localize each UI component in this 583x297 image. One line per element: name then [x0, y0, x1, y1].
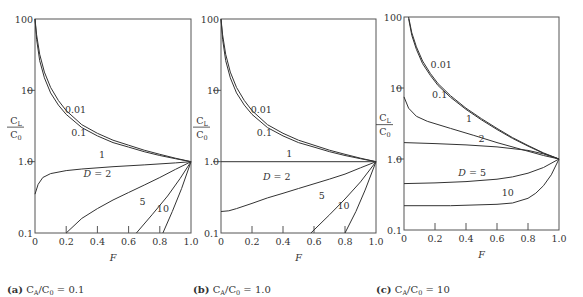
svg-text:CL: CL: [379, 112, 391, 125]
curve-label: 5: [319, 190, 325, 201]
curve-label: 10: [157, 203, 169, 214]
y-tick-label: 10: [207, 85, 219, 96]
x-tick-label: 0.2: [427, 233, 442, 244]
x-tick-label: 0.8: [152, 236, 167, 247]
panel-c: 0.11.01010000.20.40.60.81.0FCLC00.010.11…: [376, 12, 567, 297]
y-tick-label: 10: [390, 83, 402, 94]
y-tick-label: 100: [15, 14, 33, 25]
y-tick-label: 1.0: [204, 156, 219, 167]
panel-b: 0.11.01010000.20.40.60.81.0FCLC00.010.11…: [193, 14, 384, 297]
svg-text:CL: CL: [10, 115, 22, 128]
x-tick-label: 0.4: [90, 236, 105, 247]
y-axis-label: CLC0: [7, 115, 24, 142]
x-tick-label: 0.2: [244, 236, 259, 247]
curve-label: D = 2: [262, 171, 291, 182]
curve-1: [35, 162, 191, 195]
y-tick-label: 1.0: [387, 154, 402, 165]
x-tick-label: 0.4: [275, 236, 290, 247]
curve-label: 10: [337, 200, 349, 211]
y-tick-label: 0.1: [204, 228, 219, 239]
x-tick-label: 0.6: [121, 236, 136, 247]
y-tick-label: 10: [21, 85, 33, 96]
curve-label: 0.1: [257, 127, 272, 138]
plot-frame: [404, 17, 559, 230]
x-tick-label: 0.8: [520, 233, 535, 244]
x-tick-label: 0.4: [458, 233, 473, 244]
plot-frame: [221, 19, 376, 233]
svg-text:C0: C0: [10, 129, 21, 142]
y-tick-label: 0.1: [387, 225, 402, 236]
curve-label: 1: [99, 149, 105, 160]
x-axis-label: F: [294, 252, 302, 263]
curve-label: 1: [466, 113, 472, 124]
x-tick-label: 0.8: [337, 236, 352, 247]
panel-caption: (a) CA/C0 = 0.1: [7, 284, 84, 297]
svg-text:CL: CL: [196, 115, 208, 128]
plot-frame: [35, 19, 191, 233]
x-tick-label: 0.6: [306, 236, 321, 247]
y-axis-label: CLC0: [376, 112, 393, 139]
curve-label: 5: [140, 196, 146, 207]
figure: 0.11.01010000.20.40.60.81.0FCLC00.010.11…: [0, 0, 583, 297]
y-tick-label: 100: [384, 12, 402, 23]
x-tick-label: 1.0: [183, 236, 198, 247]
curve-label: 0.01: [251, 104, 272, 115]
curve-0p01: [221, 19, 376, 162]
curve-2: [404, 143, 559, 159]
curve-label: 0.01: [431, 59, 452, 70]
y-tick-label: 0.1: [18, 228, 33, 239]
x-tick-label: 1.0: [368, 236, 383, 247]
curve-0p01: [35, 19, 191, 162]
curve-label: 2: [478, 133, 484, 144]
curve-label: 1: [286, 148, 292, 159]
curve-label: D = 5: [457, 167, 486, 178]
curve-label: 0.1: [432, 89, 447, 100]
x-tick-label: 0: [401, 233, 407, 244]
y-axis-label: CLC0: [193, 115, 210, 142]
x-tick-label: 0.6: [489, 233, 504, 244]
x-tick-label: 1.0: [551, 233, 566, 244]
curve-label: 10: [502, 187, 514, 198]
curve-label: 0.1: [71, 127, 86, 138]
curve-D2: [221, 162, 376, 212]
panel-a: 0.11.01010000.20.40.60.81.0FCLC00.010.11…: [7, 14, 199, 297]
svg-text:C0: C0: [196, 129, 207, 142]
y-tick-label: 1.0: [18, 156, 33, 167]
y-tick-label: 100: [201, 14, 219, 25]
x-axis-label: F: [477, 249, 485, 260]
x-tick-label: 0: [218, 236, 224, 247]
x-axis-label: F: [109, 252, 117, 263]
x-tick-label: 0: [32, 236, 38, 247]
curve-label: D = 2: [83, 168, 112, 179]
curve-label: 0.01: [65, 104, 86, 115]
svg-text:C0: C0: [379, 126, 390, 139]
panel-caption: (c) CA/C0 = 10: [376, 284, 450, 297]
panel-caption: (b) CA/C0 = 1.0: [193, 284, 271, 297]
x-tick-label: 0.2: [59, 236, 74, 247]
